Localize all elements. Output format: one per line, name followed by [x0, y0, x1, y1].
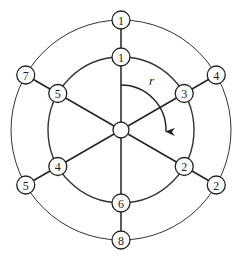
inner-node: 1 [112, 48, 130, 66]
hub-node [113, 122, 129, 138]
spoke [58, 130, 121, 167]
spoke [121, 130, 184, 167]
spoke [121, 94, 184, 131]
inner-node-label: 1 [118, 51, 124, 65]
outer-node-label: 7 [23, 69, 29, 83]
outer-node: 7 [17, 66, 35, 84]
inner-node: 2 [175, 158, 193, 176]
outer-node-label: 4 [213, 69, 219, 83]
inner-node: 3 [175, 85, 193, 103]
outer-node: 5 [17, 176, 35, 194]
rotation-label: r [149, 73, 155, 88]
inner-node-label: 6 [118, 197, 124, 211]
outer-node: 8 [112, 231, 130, 249]
outer-node-label: 1 [118, 14, 124, 28]
outer-node: 1 [112, 11, 130, 29]
inner-node: 4 [49, 158, 67, 176]
outer-node: 4 [207, 66, 225, 84]
inner-node-label: 5 [55, 87, 61, 101]
inner-node: 5 [49, 85, 67, 103]
inner-node-label: 2 [181, 160, 187, 174]
spoke [58, 94, 121, 131]
inner-node: 6 [112, 194, 130, 212]
outer-node: 2 [207, 176, 225, 194]
wheel-diagram: r 132645 142857 [0, 0, 242, 259]
outer-node-label: 2 [213, 179, 219, 193]
inner-node-label: 3 [181, 87, 187, 101]
outer-node-label: 8 [118, 234, 124, 248]
outer-node-label: 5 [23, 179, 29, 193]
inner-node-label: 4 [55, 160, 61, 174]
